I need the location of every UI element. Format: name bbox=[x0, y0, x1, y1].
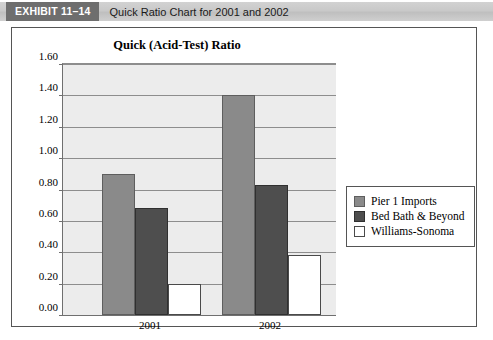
y-axis-tick-label: 1.40 bbox=[18, 82, 58, 93]
y-axis-tick-mark bbox=[59, 284, 63, 285]
legend-item-label: Pier 1 Imports bbox=[371, 196, 437, 208]
bar bbox=[135, 208, 168, 315]
bar bbox=[102, 174, 135, 315]
legend-item-label: Williams-Sonoma bbox=[371, 226, 454, 238]
bar bbox=[288, 255, 321, 315]
chart-title: Quick (Acid-Test) Ratio bbox=[12, 38, 342, 53]
x-axis-tick-labels: 20012002 bbox=[62, 319, 335, 335]
legend-swatch-icon bbox=[354, 196, 365, 207]
legend-item: Bed Bath & Beyond bbox=[354, 209, 465, 224]
y-axis-tick-label: 0.40 bbox=[18, 239, 58, 250]
legend-item: Pier 1 Imports bbox=[354, 194, 465, 209]
y-axis-tick-label: 1.00 bbox=[18, 145, 58, 156]
plot-area bbox=[62, 63, 336, 316]
y-axis-tick-mark bbox=[59, 315, 63, 316]
chart-legend: Pier 1 ImportsBed Bath & BeyondWilliams-… bbox=[346, 186, 475, 247]
chart-plot-wrapper: Quick (Acid-Test) Ratio 0.000.200.400.60… bbox=[12, 28, 478, 328]
bar bbox=[168, 284, 201, 315]
y-axis-tick-mark bbox=[59, 190, 63, 191]
y-axis-tick-label: 0.00 bbox=[18, 302, 58, 313]
y-axis-tick-mark bbox=[59, 221, 63, 222]
legend-item-label: Bed Bath & Beyond bbox=[371, 211, 465, 223]
y-axis-tick-label: 0.20 bbox=[18, 270, 58, 281]
y-axis-tick-label: 0.60 bbox=[18, 207, 58, 218]
exhibit-number-tag: EXHIBIT 11–14 bbox=[6, 2, 99, 21]
exhibit-header-band: EXHIBIT 11–14 Quick Ratio Chart for 2001… bbox=[0, 2, 493, 21]
x-axis-tick-label: 2001 bbox=[100, 319, 200, 331]
y-axis-tick-label: 0.80 bbox=[18, 176, 58, 187]
y-axis-tick-mark bbox=[59, 95, 63, 96]
legend-swatch-icon bbox=[354, 211, 365, 222]
bar-group bbox=[222, 64, 321, 315]
exhibit-title: Quick Ratio Chart for 2001 and 2002 bbox=[110, 6, 289, 18]
legend-swatch-icon bbox=[354, 226, 365, 237]
chart-frame: Quick (Acid-Test) Ratio 0.000.200.400.60… bbox=[11, 27, 477, 327]
y-axis-tick-labels: 0.000.200.400.600.801.001.201.401.60 bbox=[18, 56, 58, 309]
y-axis-tick-mark bbox=[59, 252, 63, 253]
bar bbox=[222, 95, 255, 315]
legend-item: Williams-Sonoma bbox=[354, 224, 465, 239]
y-axis-tick-mark bbox=[59, 64, 63, 65]
y-axis-tick-label: 1.20 bbox=[18, 113, 58, 124]
y-axis-tick-label: 1.60 bbox=[18, 51, 58, 62]
y-axis-tick-mark bbox=[59, 127, 63, 128]
x-axis-tick-label: 2002 bbox=[220, 319, 320, 331]
bar-group bbox=[102, 64, 201, 315]
bar bbox=[255, 185, 288, 315]
y-axis-tick-mark bbox=[59, 158, 63, 159]
